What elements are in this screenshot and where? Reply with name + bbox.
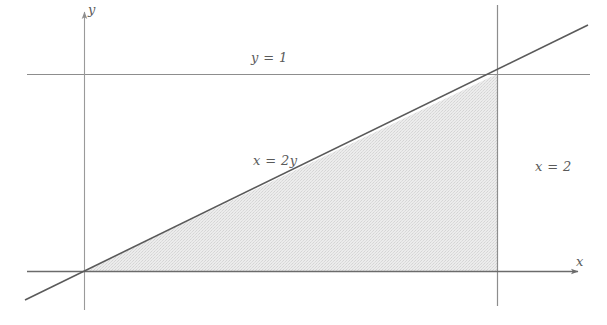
y-axis-label: y bbox=[88, 2, 95, 17]
x-axis-label: x bbox=[576, 254, 583, 269]
label-x-equals-2y: x = 2y bbox=[253, 153, 298, 168]
label-y-equals-1: y = 1 bbox=[251, 50, 288, 65]
label-x-equals-2: x = 2 bbox=[535, 159, 572, 174]
figure-canvas bbox=[0, 0, 607, 325]
figure-root: y = 1 x = 2y x = 2 x y bbox=[0, 0, 607, 325]
